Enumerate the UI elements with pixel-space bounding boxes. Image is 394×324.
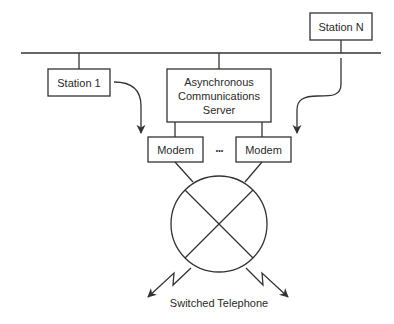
telephone-link-left-icon	[148, 268, 191, 297]
server-label-line3: Server	[203, 104, 236, 116]
modem1-node: Modem	[148, 137, 203, 162]
station1-flow-arrow	[114, 82, 141, 133]
stationN-flow-arrow	[297, 58, 341, 133]
modem2-node: Modem	[236, 137, 291, 162]
stationN-label: Station N	[318, 21, 363, 33]
server-node: Asynchronous Communications Server	[167, 69, 271, 122]
station1-label: Station 1	[57, 77, 100, 89]
modem2-label: Modem	[245, 144, 282, 156]
modem2-switch-link	[245, 162, 262, 182]
network-diagram: Station 1 Station N Asynchronous Communi…	[0, 0, 394, 324]
stationN-node: Station N	[310, 13, 372, 40]
server-label-line1: Asynchronous	[184, 76, 254, 88]
modem-ellipsis: •••	[216, 147, 224, 154]
server-label-line2: Communications	[178, 90, 260, 102]
telephone-link-right-icon	[246, 268, 288, 297]
station1-node: Station 1	[48, 69, 110, 96]
modem1-label: Modem	[157, 144, 194, 156]
modem1-switch-link	[175, 162, 193, 182]
switch-node	[171, 176, 267, 272]
caption: Switched Telephone	[170, 297, 268, 309]
